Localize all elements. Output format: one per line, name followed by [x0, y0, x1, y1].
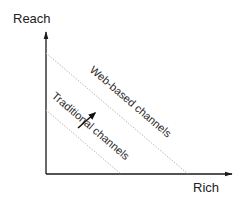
y-axis: Reach: [13, 11, 51, 174]
y-axis-label: Reach: [13, 11, 51, 26]
x-axis-label: Rich: [193, 180, 219, 195]
x-axis: Rich: [46, 174, 232, 195]
traditional-channels-band: Traditional channels: [46, 89, 132, 174]
reach-richness-diagram: Reach Rich Web-based channels Traditiona…: [0, 0, 242, 199]
traditional-channels-label: Traditional channels: [50, 89, 133, 162]
